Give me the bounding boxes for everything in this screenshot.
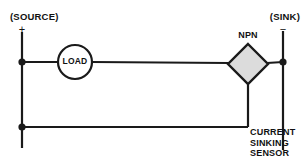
positive-polarity-label: +: [14, 24, 30, 35]
load-label: LOAD: [58, 57, 92, 66]
wire-load-to-transistor: [92, 62, 229, 63]
npn-label: NPN: [228, 31, 268, 40]
sensor-label-line-3: SENSOR: [250, 148, 295, 159]
source-label: (SOURCE): [10, 12, 59, 22]
current-sinking-sensor-label: CURRENT SINKING SENSOR: [250, 127, 295, 159]
npn-transistor-symbol: [228, 44, 268, 84]
junction-dot-source-bottom: [18, 123, 25, 130]
sensor-label-line-1: CURRENT: [250, 127, 295, 138]
junction-dot-sink: [279, 58, 286, 65]
sensor-label-line-2: SINKING: [250, 138, 295, 149]
junction-dot-source-top: [18, 58, 25, 65]
circuit-diagram: (SOURCE) + (SINK) − NPN LOAD CURRENT SIN…: [0, 0, 303, 162]
sink-label: (SINK): [255, 12, 300, 22]
negative-polarity-label: −: [275, 24, 291, 35]
